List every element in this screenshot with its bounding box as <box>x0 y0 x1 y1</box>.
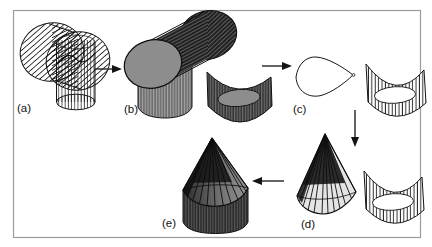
leaf-curve-outline <box>296 57 353 96</box>
arrow-c-to-d-down <box>351 110 359 147</box>
panel-e-cone-on-cylinder: (e) <box>162 138 248 234</box>
arrow-b-to-c <box>262 62 292 70</box>
label-e: (e) <box>162 217 176 229</box>
label-c: (c) <box>293 103 307 115</box>
panel-c-intersection-curve: (c) <box>293 57 355 115</box>
vertical-cylinder-wireframe <box>57 35 96 110</box>
arrow-d-to-e <box>252 177 284 185</box>
panel-a-wireframe-cylinders: (a) <box>14 16 117 114</box>
cut-shell-piece-white-bottom <box>364 171 424 223</box>
label-a: (a) <box>17 102 31 114</box>
panel-d-ruled-cone: (d) <box>297 134 356 230</box>
curve-endpoint-dot <box>352 74 355 77</box>
cut-shell-piece-dark <box>207 72 272 122</box>
figure-canvas: (a) (b) (c) <box>0 0 432 247</box>
label-d: (d) <box>301 218 315 230</box>
diagram-svg: (a) (b) (c) <box>0 0 432 247</box>
cut-shell-piece-white-top <box>366 64 426 116</box>
label-b: (b) <box>124 103 138 115</box>
